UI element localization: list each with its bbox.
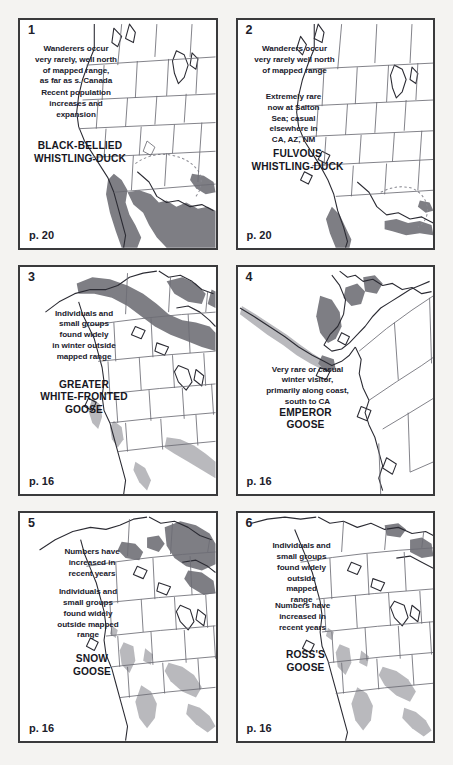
panel-grid: 1 Wanderers occur very rarely, well nort… — [18, 18, 435, 743]
map-graphic-1 — [20, 20, 216, 248]
map-graphic-4 — [238, 267, 434, 495]
range-map-panel-1[interactable]: 1 Wanderers occur very rarely, well nort… — [18, 18, 218, 250]
range-map-panel-5[interactable]: 5 Numbers have increased in recent years… — [18, 511, 218, 743]
range-map-panel-3[interactable]: 3 Individuals and small groups found wid… — [18, 265, 218, 497]
range-map-panel-4[interactable]: 4 Very rare or casual winter visitor, pr… — [236, 265, 436, 497]
map-graphic-6 — [238, 513, 434, 741]
range-map-panel-2[interactable]: 2 Wanderers occur very rarely well north… — [236, 18, 436, 250]
range-shading-4 — [239, 275, 382, 371]
range-shading-1 — [106, 174, 215, 248]
map-graphic-5 — [20, 513, 216, 741]
range-map-plate: 1 Wanderers occur very rarely, well nort… — [0, 0, 453, 765]
range-map-panel-6[interactable]: 6 Individuals and small groups found wid… — [236, 511, 436, 743]
map-graphic-2 — [238, 20, 434, 248]
map-graphic-3 — [20, 267, 216, 495]
